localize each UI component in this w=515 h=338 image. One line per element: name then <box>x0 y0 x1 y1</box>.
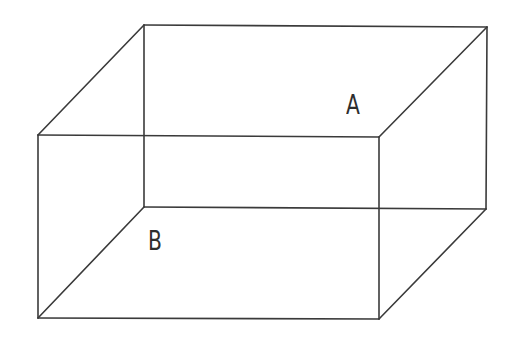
back-face <box>144 25 487 209</box>
depth-edge-top-right <box>379 27 487 137</box>
depth-edge-top-left <box>38 25 144 135</box>
front-face <box>38 135 379 319</box>
depth-edge-bottom-left <box>38 207 144 318</box>
depth-edge-bottom-right <box>379 209 486 319</box>
back-top-edge <box>144 25 487 27</box>
label-b: B <box>148 228 162 254</box>
label-a: A <box>346 92 360 118</box>
front-bottom-edge <box>38 318 379 319</box>
front-top-edge <box>38 135 379 137</box>
box-diagram <box>0 0 515 338</box>
back-bottom-edge <box>144 207 486 209</box>
back-right-edge <box>486 27 487 209</box>
depth-edges <box>38 25 487 319</box>
